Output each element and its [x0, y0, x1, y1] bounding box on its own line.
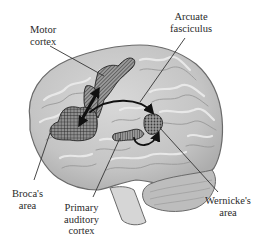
label-brocas-area: Broca's area — [12, 188, 43, 211]
label-motor-cortex: Motor cortex — [30, 24, 56, 47]
brainstem — [110, 187, 146, 225]
label-arcuate-fasciculus: Arcuate fasciculus — [170, 11, 212, 34]
label-wernickes-area: Wernicke's area — [205, 195, 251, 218]
brain-diagram: Motor cortex Arcuate fasciculus Broca's … — [0, 0, 261, 251]
label-primary-auditory-cortex: Primary auditory cortex — [64, 202, 99, 237]
